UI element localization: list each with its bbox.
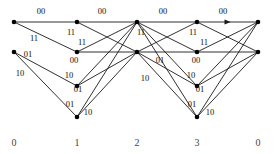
edge-label: 11: [137, 27, 145, 37]
edge-label: 00: [98, 6, 107, 16]
edge-label: 01: [156, 55, 165, 65]
trellis-state-node: [12, 50, 17, 55]
stage-label: 0: [256, 137, 261, 148]
edge-label: 00: [70, 55, 79, 65]
edge-label: 01: [196, 84, 205, 94]
trellis-state-node: [135, 20, 140, 25]
trellis-state-node: [256, 20, 261, 25]
edge-label: 11: [67, 27, 75, 37]
stage-label: 2: [135, 137, 140, 148]
trellis-state-node: [195, 20, 200, 25]
edge-label: 10: [141, 73, 150, 83]
edge-label: 10: [206, 107, 215, 117]
edge-label: 00: [219, 6, 228, 16]
edge-label: 10: [84, 107, 93, 117]
stage-labels-layer: 01230: [12, 137, 261, 148]
trellis-state-node: [75, 115, 80, 120]
trellis-state-node: [195, 50, 200, 55]
trellis-edge: [197, 22, 258, 86]
edge-label: 11: [78, 37, 86, 47]
stage-label: 0: [12, 137, 17, 148]
trellis-state-node: [75, 50, 80, 55]
trellis-state-node: [195, 115, 200, 120]
edge-direction-arrow-icon: [225, 20, 231, 25]
edge-label: 01: [188, 99, 197, 109]
stage-label: 1: [75, 137, 80, 148]
trellis-state-node: [135, 50, 140, 55]
edge-label: 01: [66, 99, 75, 109]
edge-label: 01: [24, 49, 33, 59]
edge-label: 01: [74, 84, 83, 94]
edge-label: 10: [65, 70, 74, 80]
edge-label: 11: [189, 27, 197, 37]
trellis-diagram-canvas: 0000000011011011110010010110110110111100…: [0, 0, 277, 154]
edge-label: 11: [30, 33, 38, 43]
edge-label: 10: [16, 68, 25, 78]
edge-label: 00: [159, 6, 168, 16]
trellis-edge: [77, 22, 137, 86]
edge-label: 10: [187, 70, 196, 80]
edge-label: 00: [37, 6, 46, 16]
edge-label: 00: [192, 55, 201, 65]
trellis-state-node: [256, 50, 261, 55]
trellis-state-node: [75, 20, 80, 25]
stage-label: 3: [195, 137, 200, 148]
edge-label: 11: [200, 37, 208, 47]
trellis-diagram-figure: 0000000011011011110010010110110110111100…: [0, 0, 277, 154]
trellis-state-node: [12, 20, 17, 25]
